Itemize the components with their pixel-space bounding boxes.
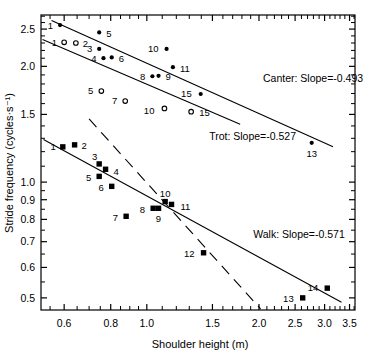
series-annotation-trot: Trot: Slope=-0.527 bbox=[209, 130, 296, 142]
figure-container: 0.60.81.01.52.02.53.03.50.50.60.70.80.91… bbox=[0, 0, 376, 356]
data-point-canter-15 bbox=[199, 92, 203, 96]
series-annotation-canter: Canter: Slope=-0.493 bbox=[263, 72, 363, 84]
data-point-canter-1 bbox=[58, 23, 62, 27]
x-tick-label: 2.0 bbox=[252, 317, 267, 329]
point-label-canter-13: 13 bbox=[306, 148, 317, 159]
y-tick-label: 2.5 bbox=[20, 23, 35, 35]
data-point-walk-3 bbox=[96, 161, 101, 166]
data-point-canter-13 bbox=[310, 141, 314, 145]
x-tick-label: 3.0 bbox=[317, 317, 332, 329]
data-point-walk-5 bbox=[96, 174, 101, 179]
point-label-canter-4: 4 bbox=[91, 53, 96, 64]
point-label-walk-12: 12 bbox=[184, 248, 195, 259]
y-tick-label: 0.8 bbox=[20, 213, 35, 225]
data-point-walk-1 bbox=[60, 144, 65, 149]
point-label-walk-1: 1 bbox=[51, 141, 56, 152]
data-point-walk-7 bbox=[123, 214, 128, 219]
data-point-canter-8 bbox=[150, 74, 154, 78]
point-label-walk-7: 7 bbox=[113, 212, 118, 223]
data-point-canter-10 bbox=[164, 47, 168, 51]
y-tick-label: 0.7 bbox=[20, 235, 35, 247]
y-axis-title: Stride frequency (cycles·s⁻¹) bbox=[3, 93, 15, 233]
data-point-walk-10 bbox=[162, 199, 167, 204]
x-tick-label: 1.5 bbox=[205, 317, 220, 329]
point-label-canter-9: 9 bbox=[166, 71, 171, 82]
data-point-canter-4 bbox=[101, 56, 105, 60]
x-tick-label: 0.8 bbox=[103, 317, 118, 329]
data-point-walk-2 bbox=[72, 142, 77, 147]
data-point-trot-1 bbox=[62, 40, 67, 45]
point-label-walk-5: 5 bbox=[86, 172, 91, 183]
x-tick-label: 2.5 bbox=[288, 317, 303, 329]
point-label-trot-1: 1 bbox=[52, 37, 57, 48]
data-point-canter-9 bbox=[156, 74, 160, 78]
point-label-canter-10: 10 bbox=[148, 43, 159, 54]
data-point-walk-14 bbox=[325, 285, 330, 290]
point-label-trot-15: 15 bbox=[199, 107, 210, 118]
point-label-walk-2: 2 bbox=[82, 140, 87, 151]
y-tick-label: 0.5 bbox=[20, 292, 35, 304]
data-point-canter-11 bbox=[171, 65, 175, 69]
data-point-canter-3 bbox=[97, 47, 101, 51]
x-axis-title: Shoulder height (m) bbox=[152, 338, 249, 350]
point-label-canter-5: 5 bbox=[106, 28, 111, 39]
point-label-canter-6: 6 bbox=[119, 53, 124, 64]
regression-lines bbox=[43, 21, 342, 303]
y-tick-label: 2.0 bbox=[20, 60, 35, 72]
y-tick-label: 0.6 bbox=[20, 261, 35, 273]
point-label-walk-8: 8 bbox=[140, 204, 145, 215]
data-point-trot-10 bbox=[162, 106, 167, 111]
data-point-walk-8 bbox=[150, 206, 155, 211]
point-label-trot-2: 2 bbox=[83, 38, 88, 49]
point-label-walk-11: 11 bbox=[181, 201, 191, 212]
log-log-scatter-chart: 0.60.81.01.52.02.53.03.50.50.60.70.80.91… bbox=[0, 0, 376, 356]
y-tick-label: 1.5 bbox=[20, 108, 35, 120]
data-point-walk-13 bbox=[300, 295, 305, 300]
y-tick-label: 0.9 bbox=[20, 194, 35, 206]
point-label-walk-9: 9 bbox=[156, 213, 161, 224]
x-tick-label: 0.6 bbox=[57, 317, 72, 329]
data-point-canter-6 bbox=[110, 55, 114, 59]
fit-line-walk bbox=[43, 140, 341, 303]
point-label-walk-10: 10 bbox=[160, 188, 171, 199]
point-label-canter-15: 15 bbox=[181, 88, 192, 99]
point-label-trot-5: 5 bbox=[88, 85, 93, 96]
y-tick-label: 1.0 bbox=[20, 176, 35, 188]
fit-line-trot bbox=[43, 39, 241, 124]
point-label-walk-13: 13 bbox=[283, 293, 294, 304]
data-point-walk-9 bbox=[156, 206, 161, 211]
data-point-trot-5 bbox=[99, 89, 104, 94]
point-label-canter-8: 8 bbox=[140, 71, 145, 82]
point-label-walk-6: 6 bbox=[98, 182, 103, 193]
point-label-walk-4: 4 bbox=[114, 166, 119, 177]
point-label-walk-3: 3 bbox=[92, 151, 97, 162]
series-annotations: Canter: Slope=-0.493Trot: Slope=-0.527Wa… bbox=[209, 72, 363, 240]
point-label-canter-11: 11 bbox=[180, 63, 190, 74]
point-label-walk-14: 14 bbox=[308, 282, 319, 293]
data-point-trot-15 bbox=[189, 109, 194, 114]
data-points: 1534610118915131257101512345678910111213… bbox=[48, 20, 330, 305]
data-point-walk-4 bbox=[103, 167, 108, 172]
data-point-walk-6 bbox=[109, 184, 114, 189]
data-point-walk-11 bbox=[169, 202, 174, 207]
point-label-trot-10: 10 bbox=[144, 105, 155, 116]
data-point-trot-2 bbox=[74, 41, 79, 46]
point-label-canter-1: 1 bbox=[48, 20, 53, 31]
series-annotation-walk: Walk: Slope=-0.571 bbox=[253, 228, 345, 240]
data-point-canter-5 bbox=[97, 30, 101, 34]
x-tick-label: 1.0 bbox=[140, 317, 155, 329]
data-point-trot-7 bbox=[123, 99, 128, 104]
point-label-trot-7: 7 bbox=[112, 95, 117, 106]
x-tick-label: 3.5 bbox=[342, 317, 357, 329]
data-point-walk-12 bbox=[201, 250, 206, 255]
